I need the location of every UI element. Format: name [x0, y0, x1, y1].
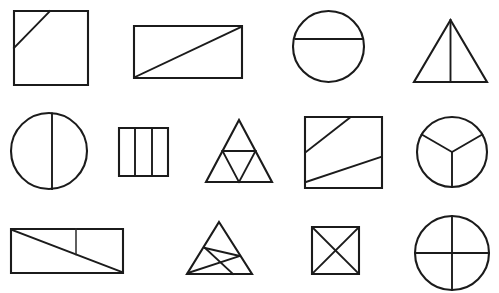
divider-line-3 — [239, 151, 256, 182]
figure-rectangle-with-diagonal — [134, 26, 242, 78]
figure-circle-with-vertical-diameter — [11, 113, 87, 189]
divider-line-2 — [223, 151, 240, 182]
figure-rectangle-three-vertical-strips — [119, 128, 168, 176]
shapes-canvas — [0, 0, 499, 293]
rectangle-outline — [119, 128, 168, 176]
figure-sheet — [0, 0, 499, 293]
figure-circle-quartered — [415, 216, 489, 290]
divider-line-1 — [135, 27, 241, 77]
figure-triangle-with-vertical-median — [414, 20, 487, 82]
figure-circle-with-horizontal-chord — [293, 11, 364, 82]
figure-square-with-both-diagonals — [312, 227, 359, 274]
figure-circle-three-sectors — [417, 117, 487, 187]
figure-square-with-partial-diagonal — [14, 11, 88, 85]
divider-line-1 — [14, 11, 50, 48]
figure-square-with-two-oblique-lines — [305, 117, 382, 188]
divider-line-2 — [306, 157, 381, 182]
circle-outline — [11, 113, 87, 189]
square-outline — [14, 11, 88, 85]
figure-rectangle-diagonal-with-vertical-segment — [11, 229, 123, 273]
divider-line-3 — [452, 135, 482, 153]
circle-outline — [293, 11, 364, 82]
figure-triangle-with-medial-triangle — [206, 120, 272, 182]
square-outline — [305, 117, 382, 188]
divider-line-1 — [306, 118, 350, 153]
divider-line-2 — [422, 135, 452, 153]
divider-line-1 — [12, 230, 122, 272]
triangle-outline — [187, 222, 252, 274]
figure-triangle-with-three-cevians — [187, 222, 252, 274]
